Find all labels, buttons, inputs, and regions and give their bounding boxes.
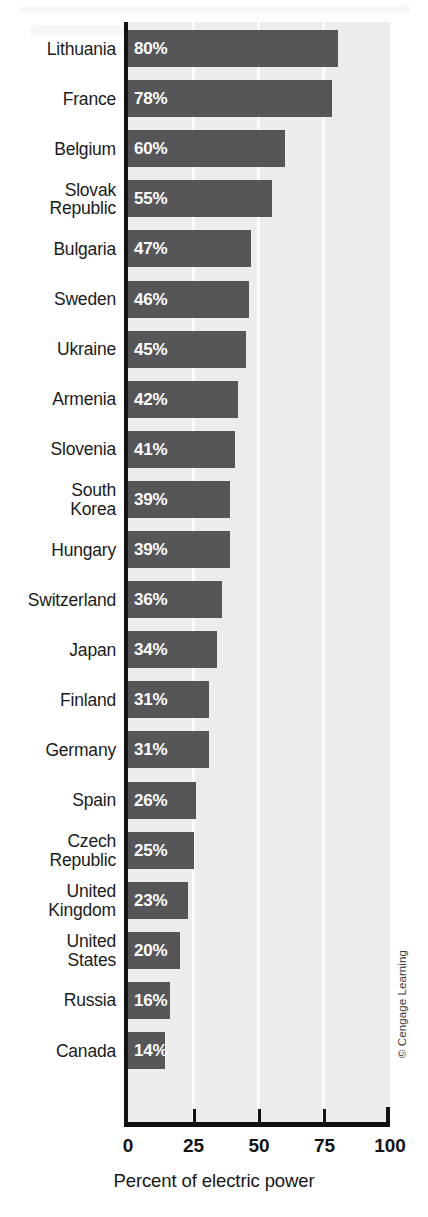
- category-label: Germany: [4, 741, 116, 760]
- bar-row: Lithuania80%: [0, 30, 428, 67]
- bar-row: United States20%: [0, 932, 428, 969]
- bar-row: Czech Republic25%: [0, 832, 428, 869]
- category-label: Lithuania: [4, 39, 116, 58]
- bar-value-label: 60%: [134, 130, 167, 167]
- bar-row: South Korea39%: [0, 481, 428, 518]
- category-label: Sweden: [4, 290, 116, 309]
- bar-row: Ukraine45%: [0, 331, 428, 368]
- x-axis-line: [124, 1122, 390, 1127]
- bar-row: Switzerland36%: [0, 581, 428, 618]
- bar-row: Slovak Republic55%: [0, 180, 428, 217]
- bar-value-label: 34%: [134, 631, 167, 668]
- bar-value-label: 47%: [134, 230, 167, 267]
- category-label: United States: [4, 932, 116, 969]
- bar-row: United Kingdom23%: [0, 882, 428, 919]
- category-label: Canada: [4, 1041, 116, 1060]
- bar-value-label: 80%: [134, 30, 167, 67]
- tick-75: [323, 1109, 326, 1122]
- category-label: Slovak Republic: [4, 180, 116, 217]
- bar-value-label: 39%: [134, 481, 167, 518]
- bar-row: Slovenia41%: [0, 431, 428, 468]
- category-label: Czech Republic: [4, 832, 116, 869]
- bar-value-label: 41%: [134, 431, 167, 468]
- bar-row: Spain26%: [0, 782, 428, 819]
- category-label: France: [4, 89, 116, 108]
- bar-row: Canada14%: [0, 1032, 428, 1069]
- bar-value-label: 39%: [134, 531, 167, 568]
- category-label: Bulgaria: [4, 240, 116, 259]
- category-label: Finland: [4, 691, 116, 710]
- bar-value-label: 16%: [134, 982, 167, 1019]
- bar-value-label: 45%: [134, 331, 167, 368]
- bar-value-label: 20%: [134, 932, 167, 969]
- x-tick-label: 0: [98, 1135, 158, 1157]
- bar-row: Finland31%: [0, 681, 428, 718]
- bar-value-label: 36%: [134, 581, 167, 618]
- bar-row: Germany31%: [0, 731, 428, 768]
- bar-value-label: 25%: [134, 832, 167, 869]
- bar-row: Bulgaria47%: [0, 230, 428, 267]
- nuclear-electricity-bar-chart: Lithuania80%France78%Belgium60%Slovak Re…: [0, 0, 428, 1217]
- x-axis-title: Percent of electric power: [0, 1170, 428, 1192]
- axis-endcap-left: [124, 1107, 128, 1122]
- bar-value-label: 26%: [134, 782, 167, 819]
- bar-row: Japan34%: [0, 631, 428, 668]
- bar-value-label: 23%: [134, 882, 167, 919]
- category-label: Belgium: [4, 139, 116, 158]
- bar-value-label: 46%: [134, 281, 167, 318]
- tick-50: [258, 1109, 261, 1122]
- category-label: Armenia: [4, 390, 116, 409]
- axis-endcap-right: [386, 1107, 390, 1122]
- bar-row: Hungary39%: [0, 531, 428, 568]
- copyright-credit: © Cengage Learning: [396, 950, 408, 1058]
- category-label: Slovenia: [4, 440, 116, 459]
- x-tick-label: 50: [229, 1135, 289, 1157]
- bar-row: Belgium60%: [0, 130, 428, 167]
- category-label: South Korea: [4, 481, 116, 518]
- category-label: Switzerland: [4, 590, 116, 609]
- category-label: Spain: [4, 791, 116, 810]
- x-tick-label: 25: [164, 1135, 224, 1157]
- tick-25: [193, 1109, 196, 1122]
- bar-value-label: 55%: [134, 180, 167, 217]
- bar-value-label: 78%: [134, 80, 167, 117]
- bar-value-label: 31%: [134, 731, 167, 768]
- bar-row: Armenia42%: [0, 381, 428, 418]
- bar-value-label: 31%: [134, 681, 167, 718]
- category-label: Japan: [4, 640, 116, 659]
- bar-value-label: 42%: [134, 381, 167, 418]
- x-tick-label: 75: [295, 1135, 355, 1157]
- bar-row: Sweden46%: [0, 281, 428, 318]
- category-label: Hungary: [4, 540, 116, 559]
- bar-row: France78%: [0, 80, 428, 117]
- category-label: Ukraine: [4, 340, 116, 359]
- category-label: United Kingdom: [4, 882, 116, 919]
- bar-value-label: 14%: [134, 1032, 167, 1069]
- category-label: Russia: [4, 991, 116, 1010]
- x-tick-label: 100: [360, 1135, 420, 1157]
- bar-row: Russia16%: [0, 982, 428, 1019]
